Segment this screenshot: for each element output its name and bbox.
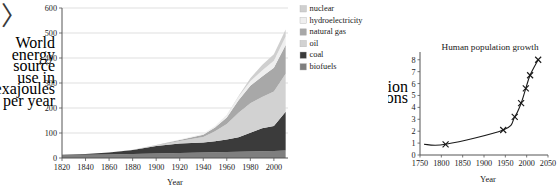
energy-legend: nuclearhydroelectricitynatural gasoilcoa… xyxy=(300,4,363,71)
population-data-point xyxy=(500,127,506,133)
energy-x-tick: 1880 xyxy=(124,163,140,172)
population-y-tick: 6 xyxy=(411,80,415,89)
population-data-point xyxy=(518,100,524,106)
population-y-tick-labels: 012345678 xyxy=(411,56,415,160)
legend-label: natural gas xyxy=(310,27,347,36)
legend-label: nuclear xyxy=(310,4,335,13)
legend-label: oil xyxy=(310,39,320,48)
population-y-axis-label: Populationin billions xyxy=(388,78,408,106)
population-x-tick-labels: 1750180018501900195020002050 xyxy=(412,159,556,168)
population-x-tick: 1750 xyxy=(412,159,428,168)
legend-swatch xyxy=(300,40,306,46)
population-data-point xyxy=(512,114,518,120)
energy-x-tick-labels: 1820184018601880190019201940196019802000 xyxy=(54,163,282,172)
energy-x-tick: 1840 xyxy=(77,163,93,172)
population-y-label-line: in billions xyxy=(388,89,408,106)
energy-y-label-line: per year xyxy=(3,92,56,110)
legend-label: biofuels xyxy=(310,62,337,71)
legend-label: hydroelectricity xyxy=(310,16,364,25)
figure-container: 〉 18201840186018801900192019401960198020… xyxy=(0,0,558,195)
legend-swatch xyxy=(300,6,306,12)
population-x-tick: 2000 xyxy=(518,159,534,168)
legend-swatch xyxy=(300,64,306,70)
population-x-tick: 2050 xyxy=(540,159,556,168)
energy-x-tick: 1920 xyxy=(172,163,188,172)
population-y-tick: 8 xyxy=(411,56,415,65)
population-x-axis-label: Year xyxy=(480,174,496,184)
legend-label: coal xyxy=(310,50,325,59)
energy-y-tick: 100 xyxy=(45,129,57,138)
energy-x-tick: 1860 xyxy=(101,163,117,172)
population-data-point xyxy=(527,72,533,78)
population-chart-title: Human population growth xyxy=(442,42,539,52)
legend-swatch xyxy=(300,52,306,58)
energy-y-axis-label: Worldenergysourceuse inexajoulesper year xyxy=(0,34,56,110)
population-y-tick: 4 xyxy=(411,103,415,112)
population-data-point xyxy=(523,85,529,91)
legend-swatch xyxy=(300,17,306,23)
energy-x-tick: 1940 xyxy=(195,163,211,172)
population-data-point xyxy=(535,57,541,63)
energy-x-axis-label: Year xyxy=(167,177,183,187)
energy-x-tick: 2000 xyxy=(266,163,282,172)
energy-x-tick: 1980 xyxy=(242,163,258,172)
population-x-tick: 1850 xyxy=(454,159,470,168)
energy-stacked-areas xyxy=(62,30,286,159)
world-energy-chart: 1820184018601880190019201940196019802000… xyxy=(0,0,390,195)
legend-swatch xyxy=(300,29,306,35)
human-population-chart: Human population growth 1750180018501900… xyxy=(388,0,558,195)
population-y-tick: 0 xyxy=(411,151,415,160)
energy-y-tick: 0 xyxy=(53,154,57,163)
population-y-tick: 1 xyxy=(411,139,415,148)
population-y-tick: 2 xyxy=(411,127,415,136)
population-y-tick: 5 xyxy=(411,91,415,100)
population-x-tick: 1800 xyxy=(433,159,449,168)
energy-x-tick: 1820 xyxy=(54,163,70,172)
population-y-tick: 7 xyxy=(411,68,415,77)
energy-x-tick: 1960 xyxy=(219,163,235,172)
population-axes xyxy=(418,52,549,158)
energy-y-tick: 600 xyxy=(45,4,57,13)
population-y-tick: 3 xyxy=(411,115,415,124)
energy-x-tick: 1900 xyxy=(148,163,164,172)
population-x-tick: 1950 xyxy=(497,159,513,168)
population-x-tick: 1900 xyxy=(476,159,492,168)
